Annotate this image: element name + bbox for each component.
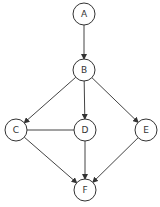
nodes-group: ABCDEF xyxy=(5,3,157,201)
node-a: A xyxy=(73,3,95,25)
node-label: B xyxy=(81,65,87,75)
edge-b-e xyxy=(92,78,138,123)
edges-group xyxy=(24,25,138,183)
node-label: F xyxy=(82,185,87,195)
node-d: D xyxy=(74,119,96,141)
node-label: D xyxy=(82,125,89,135)
graph-diagram: ABCDEF xyxy=(0,0,160,207)
edge-e-f xyxy=(93,138,138,183)
node-e: E xyxy=(135,119,157,141)
node-b: B xyxy=(73,59,95,81)
edge-b-d xyxy=(84,81,85,119)
node-c: C xyxy=(5,119,27,141)
node-label: E xyxy=(143,125,149,135)
node-f: F xyxy=(74,179,96,201)
edge-c-f xyxy=(24,137,76,183)
node-label: A xyxy=(81,9,88,19)
node-label: C xyxy=(13,125,19,135)
edge-b-c xyxy=(24,77,76,122)
